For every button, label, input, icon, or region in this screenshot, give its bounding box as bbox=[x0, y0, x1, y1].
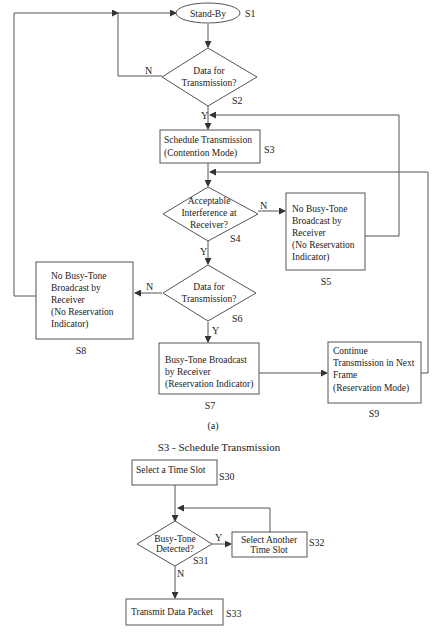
svg-text:S4: S4 bbox=[230, 233, 241, 244]
svg-text:Transmission?: Transmission? bbox=[181, 78, 236, 88]
node-s6-decision: Data for Transmission? S6 N Y bbox=[146, 265, 256, 336]
node-s5-no-busytone: No Busy-Tone Broadcast by Receiver (No R… bbox=[286, 193, 365, 287]
svg-text:Receiver?: Receiver? bbox=[190, 220, 228, 230]
node-s1-standby: Stand-By S1 bbox=[176, 3, 256, 23]
svg-text:(Reservation Indicator): (Reservation Indicator) bbox=[165, 379, 253, 390]
svg-text:Transmission in Next: Transmission in Next bbox=[333, 358, 415, 368]
svg-text:Stand-By: Stand-By bbox=[190, 9, 226, 19]
svg-text:(No Reservation: (No Reservation bbox=[51, 307, 114, 318]
node-s33-transmit: Transmit Data Packet S33 bbox=[126, 599, 242, 625]
svg-text:Receiver: Receiver bbox=[51, 295, 86, 305]
svg-text:S7: S7 bbox=[205, 400, 216, 411]
svg-text:Indicator): Indicator) bbox=[292, 252, 329, 263]
svg-text:S3: S3 bbox=[264, 144, 275, 155]
node-s8-no-busytone: No Busy-Tone Broadcast by Receiver (No R… bbox=[36, 262, 133, 356]
node-s9-continue: Continue Transmission in Next Frame (Res… bbox=[328, 342, 421, 419]
svg-text:Select a Time Slot: Select a Time Slot bbox=[136, 465, 206, 475]
svg-text:Data for: Data for bbox=[193, 282, 225, 292]
node-s2-decision: Data for Transmission? S2 N Y bbox=[145, 48, 257, 121]
svg-text:Detected?: Detected? bbox=[156, 544, 194, 554]
svg-text:(Reservation Mode): (Reservation Mode) bbox=[333, 383, 409, 394]
svg-text:by Receiver: by Receiver bbox=[165, 367, 211, 377]
svg-text:Continue: Continue bbox=[333, 346, 368, 356]
svg-text:S5: S5 bbox=[321, 276, 332, 287]
svg-text:Indicator): Indicator) bbox=[51, 319, 88, 330]
edge-s32-loop bbox=[178, 508, 270, 532]
svg-text:Time Slot: Time Slot bbox=[250, 545, 288, 555]
svg-text:S6: S6 bbox=[232, 313, 243, 324]
svg-text:S1: S1 bbox=[245, 8, 256, 19]
edge-s2-no bbox=[118, 13, 162, 76]
node-s32-select-another: Select Another Time Slot S32 bbox=[232, 532, 325, 557]
svg-text:Acceptable: Acceptable bbox=[188, 196, 231, 206]
edge-s8-to-s1 bbox=[14, 13, 118, 296]
figure-b-title: S3 - Schedule Transmission bbox=[158, 441, 281, 453]
svg-text:S31: S31 bbox=[193, 555, 209, 566]
node-s3-schedule: Schedule Transmission (Contention Mode) … bbox=[160, 130, 275, 163]
svg-text:Data for: Data for bbox=[193, 66, 225, 76]
svg-text:Busy-Tone Broadcast: Busy-Tone Broadcast bbox=[165, 355, 247, 365]
svg-text:Broadcast by: Broadcast by bbox=[292, 216, 342, 226]
svg-text:Busy-Tone: Busy-Tone bbox=[154, 534, 196, 544]
node-s30-select-slot: Select a Time Slot S30 bbox=[132, 460, 235, 485]
svg-text:Transmit Data Packet: Transmit Data Packet bbox=[131, 607, 213, 617]
svg-text:Schedule Transmission: Schedule Transmission bbox=[164, 135, 252, 145]
svg-text:Select Another: Select Another bbox=[241, 535, 298, 545]
svg-text:Y: Y bbox=[200, 246, 207, 257]
svg-text:Y: Y bbox=[201, 110, 208, 121]
svg-text:Frame: Frame bbox=[333, 370, 357, 380]
svg-text:S30: S30 bbox=[219, 471, 235, 482]
svg-text:Broadcast by: Broadcast by bbox=[51, 283, 101, 293]
svg-text:N: N bbox=[260, 200, 267, 211]
svg-text:Transmission?: Transmission? bbox=[181, 294, 236, 304]
figure-a-caption: (a) bbox=[207, 420, 218, 432]
svg-text:N: N bbox=[145, 65, 152, 76]
node-s4-decision: Acceptable Interference at Receiver? S4 … bbox=[163, 187, 267, 257]
svg-text:S2: S2 bbox=[232, 95, 243, 106]
svg-text:N: N bbox=[177, 568, 184, 579]
svg-text:No Busy-Tone: No Busy-Tone bbox=[51, 271, 107, 281]
svg-text:Y: Y bbox=[212, 325, 219, 336]
flowchart-canvas: Stand-By S1 Data for Transmission? S2 N … bbox=[0, 0, 439, 634]
svg-text:S9: S9 bbox=[369, 408, 380, 419]
svg-text:S8: S8 bbox=[76, 345, 87, 356]
svg-text:Receiver: Receiver bbox=[292, 228, 327, 238]
svg-text:S32: S32 bbox=[309, 537, 325, 548]
svg-text:Interference at: Interference at bbox=[181, 208, 236, 218]
svg-text:N: N bbox=[146, 281, 153, 292]
svg-text:Y: Y bbox=[215, 532, 222, 543]
svg-text:S33: S33 bbox=[226, 608, 242, 619]
svg-text:No Busy-Tone: No Busy-Tone bbox=[292, 204, 348, 214]
svg-text:(Contention Mode): (Contention Mode) bbox=[164, 148, 237, 159]
svg-text:(No Reservation: (No Reservation bbox=[292, 240, 355, 251]
node-s7-busytone: Busy-Tone Broadcast by Receiver (Reserva… bbox=[159, 343, 259, 411]
node-s31-decision: Busy-Tone Detected? S31 Y N bbox=[137, 521, 222, 579]
